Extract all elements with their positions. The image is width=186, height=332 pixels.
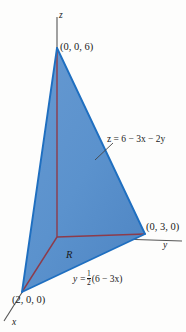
- base-line-equation-rhs: (6 − 3x): [92, 274, 123, 284]
- y-axis-label: y: [163, 241, 167, 251]
- vertex-label-x: (2, 0, 0): [12, 295, 45, 306]
- base-line-fraction-denominator: 2: [87, 279, 92, 287]
- x-axis-label: x: [12, 318, 16, 328]
- vertex-label-y: (0, 3, 0): [146, 222, 179, 233]
- z-axis-label: z: [59, 11, 63, 21]
- base-line-equation-label: y =12(6 − 3x): [73, 270, 122, 286]
- plane-equation-label: z = 6 − 3x − 2y: [107, 135, 165, 145]
- region-label: R: [66, 250, 72, 261]
- vertex-label-z: (0, 0, 6): [60, 42, 93, 53]
- base-line-fraction: 12: [87, 270, 92, 286]
- base-line-equation-lhs: y =: [73, 274, 86, 284]
